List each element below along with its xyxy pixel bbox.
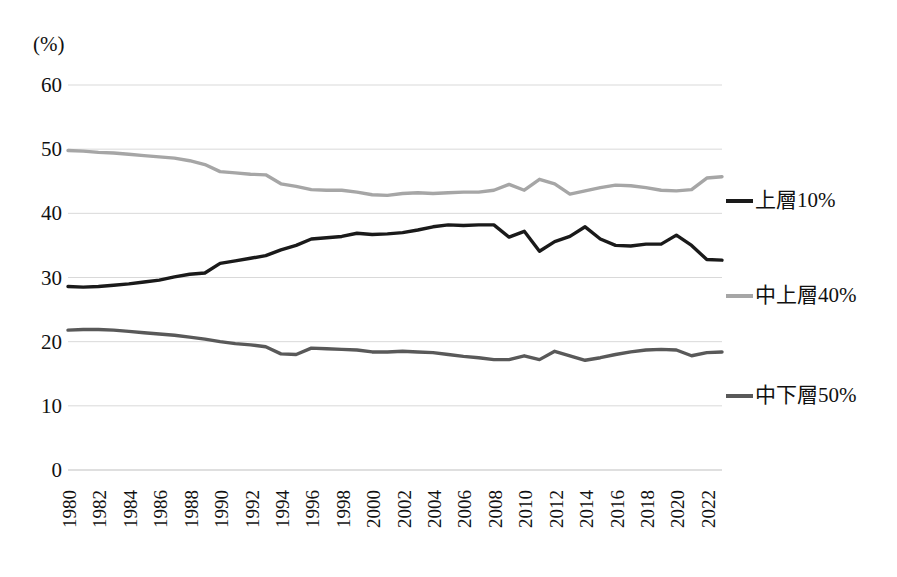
legend-swatch-top10 (726, 199, 753, 203)
x-axis-tick-1984: 1984 (121, 490, 140, 528)
legend-label-bottom50: 中下層50% (755, 385, 857, 406)
x-axis-tick-1994: 1994 (273, 490, 292, 528)
x-axis-tick-1982: 1982 (90, 490, 109, 528)
x-axis-tick-2012: 2012 (547, 490, 566, 528)
legend-item-top10: 上層10% (726, 190, 836, 211)
x-axis-tick-2008: 2008 (486, 490, 505, 528)
legend-swatch-middle40 (726, 294, 753, 298)
x-axis-tick-labels: 1980198219841986198819901992199419961998… (0, 486, 897, 576)
x-axis-tick-2018: 2018 (638, 490, 657, 528)
legend-label-middle40: 中上層40% (755, 285, 857, 306)
legend-item-middle40: 中上層40% (726, 285, 857, 306)
legend-swatch-bottom50 (726, 394, 753, 398)
series-lines (68, 150, 722, 360)
x-axis-tick-1998: 1998 (334, 490, 353, 528)
x-axis-tick-1988: 1988 (182, 490, 201, 528)
x-axis-tick-2014: 2014 (577, 490, 596, 528)
x-axis-tick-2022: 2022 (699, 490, 718, 528)
x-axis-tick-1990: 1990 (212, 490, 231, 528)
legend-label-top10: 上層10% (755, 190, 836, 211)
x-axis-tick-1992: 1992 (243, 490, 262, 528)
x-axis-tick-1980: 1980 (60, 490, 79, 528)
x-axis-tick-2020: 2020 (668, 490, 687, 528)
x-axis-tick-2000: 2000 (364, 490, 383, 528)
series-line-2 (68, 329, 722, 360)
x-axis-tick-2006: 2006 (455, 490, 474, 528)
series-line-1 (68, 150, 722, 195)
x-axis-tick-2002: 2002 (395, 490, 414, 528)
x-axis-tick-2004: 2004 (425, 490, 444, 528)
legend-item-bottom50: 中下層50% (726, 385, 857, 406)
x-axis-tick-2010: 2010 (516, 490, 535, 528)
x-axis-tick-2016: 2016 (608, 490, 627, 528)
x-axis-tick-1986: 1986 (151, 490, 170, 528)
x-axis-tick-1996: 1996 (303, 490, 322, 528)
line-chart: (%) 0102030405060 1980198219841986198819… (0, 0, 897, 577)
